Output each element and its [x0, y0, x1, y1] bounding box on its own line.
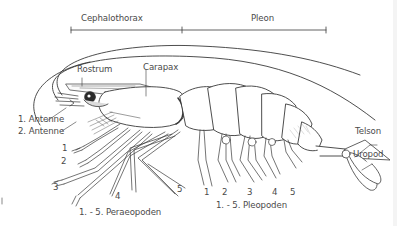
peraeopod-number-1: 1 — [62, 144, 67, 153]
peraeopod-number-5: 5 — [177, 185, 182, 194]
label-telson: Telson — [355, 127, 381, 136]
pleopod-number-4: 4 — [272, 188, 277, 197]
antenna-stalks — [55, 93, 84, 106]
region-bracket-lines — [71, 27, 326, 33]
shrimp-illustration — [0, 0, 397, 226]
label-antenne-1: 1. Antenne — [18, 115, 64, 124]
label-uropod: Uropod — [353, 150, 383, 159]
carapace-shape — [99, 87, 187, 128]
label-antenne-2: 2. Antenne — [18, 127, 64, 136]
pleopod-number-3: 3 — [247, 188, 252, 197]
label-rostrum: Rostrum — [77, 65, 112, 74]
label-pleopoden: 1. - 5. Pleopoden — [216, 201, 287, 210]
peraeopod-number-4: 4 — [115, 192, 120, 201]
region-label-pleon: Pleon — [251, 14, 274, 23]
label-carapax: Carapax — [143, 63, 178, 72]
label-peraeopoden: 1. - 5. Peraeopoden — [79, 208, 161, 217]
pleopod-number-2: 2 — [222, 188, 227, 197]
pleopod-number-5: 5 — [290, 188, 295, 197]
right-edge-strip — [393, 0, 397, 226]
shrimp-anatomy-diagram: Cephalothorax Pleon Rostrum Carapax 1. A… — [0, 0, 397, 226]
peraeopod-number-3: 3 — [53, 183, 58, 192]
tail-fan — [342, 140, 390, 190]
region-label-cephalothorax: Cephalothorax — [81, 14, 143, 23]
peraeopod-number-2: 2 — [61, 157, 66, 166]
pleopod-number-1: 1 — [204, 188, 209, 197]
